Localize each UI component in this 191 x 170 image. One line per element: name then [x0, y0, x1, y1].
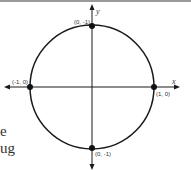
cropped-text-fragment-2: ug — [0, 141, 15, 156]
arrow-up-icon — [90, 4, 95, 10]
point-label-bottom: (0, -1) — [95, 151, 111, 157]
arrow-left-icon — [4, 85, 10, 90]
y-axis-label: y — [95, 7, 100, 16]
cropped-text-fragment-1: e — [0, 124, 7, 139]
arrow-down-icon — [90, 164, 95, 170]
unit-circle-diagram: y x (0, -1) (-1, 0) (1, 0) (0, -1) — [0, 0, 191, 170]
point-right — [151, 84, 157, 90]
point-label-right: (1, 0) — [156, 91, 170, 97]
point-label-top: (0, -1) — [74, 19, 90, 25]
x-axis-label: x — [171, 77, 176, 86]
point-label-left: (-1, 0) — [12, 79, 28, 85]
